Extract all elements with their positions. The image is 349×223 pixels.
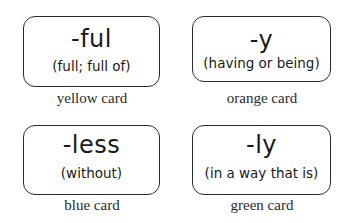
card-suffix: -ful [24, 26, 159, 52]
card-color-label: green card [192, 197, 332, 214]
suffix-card-y: -y (having or being) [192, 16, 331, 82]
card-suffix: -ly [193, 132, 330, 158]
card-color-label: blue card [22, 197, 162, 214]
card-meaning: (without) [24, 165, 159, 181]
suffix-card-less: -less (without) [23, 125, 160, 195]
card-meaning: (full; full of) [24, 58, 159, 74]
card-color-label: yellow card [22, 90, 162, 107]
card-meaning: (having or being) [193, 55, 330, 71]
suffix-card-ly: -ly (in a way that is) [192, 125, 331, 195]
card-suffix: -less [24, 132, 159, 158]
card-color-label: orange card [192, 90, 332, 107]
card-meaning: (in a way that is) [193, 165, 330, 181]
card-suffix: -y [193, 27, 330, 53]
suffix-card-ful: -ful (full; full of) [23, 16, 160, 87]
